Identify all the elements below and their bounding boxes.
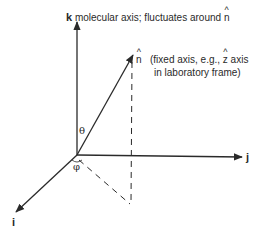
n-hat-symbol: n: [224, 12, 230, 24]
k-axis-description: molecular axis; fluctuates around: [75, 12, 221, 23]
n-note-axis: axis: [231, 54, 249, 65]
n-projection-plane: [79, 160, 130, 204]
theta-label: θ: [79, 125, 85, 137]
n-vector: [77, 55, 133, 155]
n-projection-vertical: [131, 62, 132, 204]
n-note-line2: in laboratory frame): [154, 67, 241, 79]
i-axis: [16, 155, 77, 212]
n-note-open: (fixed axis, e.g.,: [150, 54, 220, 65]
n-vector-label: n: [136, 54, 142, 66]
k-axis-label: k: [66, 11, 72, 23]
z-hat-symbol: z: [223, 54, 228, 66]
j-axis: [77, 155, 242, 157]
phi-label: φ: [73, 161, 80, 173]
vector-diagram: [0, 0, 262, 236]
n-hat-label: n: [136, 54, 142, 66]
j-axis-label: j: [246, 151, 249, 163]
n-note-line1: (fixed axis, e.g., z axis: [150, 54, 248, 66]
k-axis-annotation: k molecular axis; fluctuates around n: [66, 11, 229, 24]
i-axis-label: i: [12, 216, 15, 228]
